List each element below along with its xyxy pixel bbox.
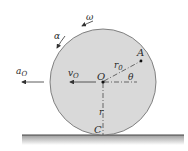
rolling-disk-diagram: ω α aO vO O A r0 θ r C <box>0 0 188 151</box>
omega-label: ω <box>86 12 94 22</box>
point-A-label: A <box>136 47 144 58</box>
ground <box>22 135 184 145</box>
aO-label: aO <box>16 66 27 78</box>
center-O-label: O <box>97 71 105 82</box>
ground-shadow <box>22 135 184 145</box>
r-label: r <box>99 107 104 117</box>
alpha-label: α <box>54 31 60 41</box>
contact-C-label: C <box>94 124 102 135</box>
theta-label: θ <box>128 72 134 82</box>
point-A <box>140 60 143 63</box>
